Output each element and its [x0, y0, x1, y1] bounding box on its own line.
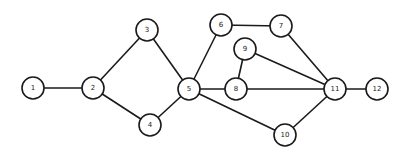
node-10: 10	[274, 124, 296, 146]
node-1: 1	[22, 77, 44, 99]
edge-2-3	[93, 30, 147, 88]
node-label: 5	[187, 85, 191, 93]
node-label: 12	[373, 85, 382, 93]
edge-9-11	[245, 49, 335, 89]
node-2: 2	[82, 77, 104, 99]
node-9: 9	[234, 38, 256, 60]
node-3: 3	[136, 19, 158, 41]
node-label: 6	[219, 21, 224, 29]
node-label: 10	[281, 131, 290, 139]
node-6: 6	[210, 14, 232, 36]
node-label: 9	[243, 45, 247, 53]
node-label: 3	[145, 26, 149, 34]
node-8: 8	[225, 78, 247, 100]
node-5: 5	[178, 78, 200, 100]
nodes-layer: 123456789101112	[22, 14, 388, 146]
node-label: 11	[331, 85, 340, 93]
node-label: 4	[148, 121, 153, 129]
network-graph: 123456789101112	[0, 0, 411, 157]
edge-7-11	[281, 26, 335, 89]
node-label: 1	[31, 84, 35, 92]
node-label: 7	[279, 22, 283, 30]
node-7: 7	[270, 15, 292, 37]
node-4: 4	[139, 114, 161, 136]
node-12: 12	[366, 78, 388, 100]
node-label: 8	[234, 85, 238, 93]
node-11: 11	[324, 78, 346, 100]
node-label: 2	[91, 84, 95, 92]
